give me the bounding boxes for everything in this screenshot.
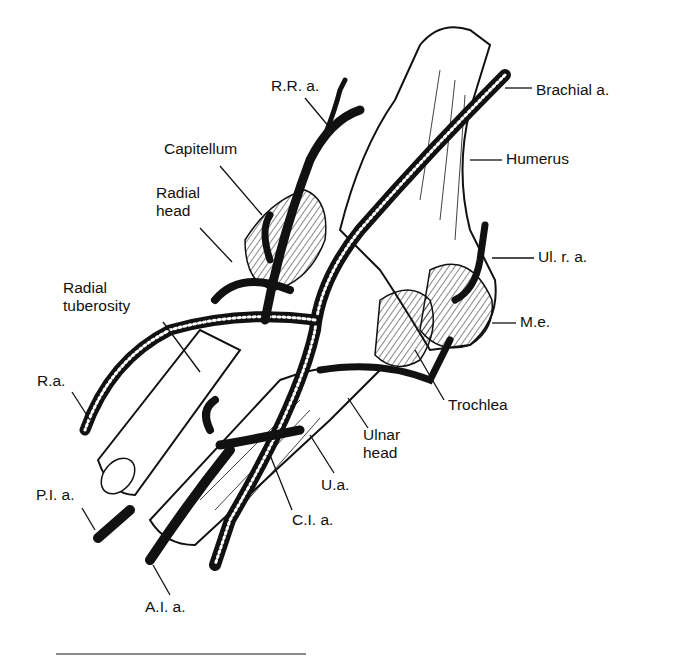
label-trochlea: Trochlea (448, 396, 508, 414)
humerus-bone (340, 27, 496, 366)
label-p-i-a: P.I. a. (36, 486, 75, 504)
label-ul-r-a: Ul. r. a. (538, 248, 587, 266)
label-ulnar-head: Ulnar head (363, 426, 400, 462)
label-a-i-a: A.I. a. (145, 598, 186, 616)
label-r-a: R.a. (37, 372, 65, 390)
label-radial-head: Radial head (156, 184, 200, 220)
footnote-divider (56, 653, 306, 655)
label-brachial-a: Brachial a. (536, 81, 609, 99)
label-capitellum: Capitellum (164, 140, 237, 158)
elbow-artery-illustration: R.R. a. Brachial a. Capitellum Humerus R… (0, 0, 673, 658)
label-c-i-a: C.I. a. (292, 511, 333, 529)
label-rr-a: R.R. a. (271, 77, 319, 95)
label-u-a: U.a. (321, 476, 349, 494)
label-m-e: M.e. (520, 313, 550, 331)
label-humerus: Humerus (506, 150, 569, 168)
label-radial-tuberosity: Radial tuberosity (63, 279, 130, 315)
